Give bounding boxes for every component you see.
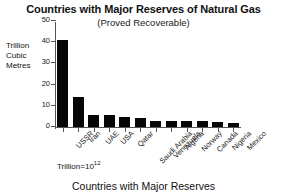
bar	[228, 123, 239, 127]
bar-chart-figure: Countries with Major Reserves of Natural…	[0, 0, 287, 196]
plot-area: 01020304050	[55, 22, 241, 128]
y-axis-tick: 40	[55, 41, 56, 42]
y-axis-tick-mark	[51, 84, 56, 85]
y-axis-line	[55, 22, 56, 129]
bar	[119, 117, 130, 127]
bar	[135, 118, 146, 127]
y-axis-tick-label: 30	[42, 57, 50, 66]
bar	[57, 40, 68, 127]
bar	[104, 115, 115, 127]
y-axis-tick-mark	[51, 41, 56, 42]
y-axis-label-line-3: Metres	[6, 61, 46, 71]
y-axis-tick-label: 40	[42, 36, 50, 45]
y-axis-tick-mark	[51, 126, 56, 127]
x-axis-tick-label: Qatar	[135, 129, 155, 149]
y-axis-tick-mark	[51, 62, 56, 63]
chart-title: Countries with Major Reserves of Natural…	[0, 3, 287, 15]
footnote-exponent: 12	[94, 160, 101, 166]
y-axis-label: Trillion Cubic Metres	[6, 41, 46, 71]
x-axis-tick-label: USA	[119, 129, 136, 146]
footnote: Trillion=1012	[57, 160, 101, 171]
bar	[88, 115, 99, 127]
bar	[150, 121, 161, 127]
y-axis-tick-mark	[51, 20, 56, 21]
y-axis-tick: 10	[55, 105, 56, 106]
y-axis-tick-label: 10	[42, 100, 50, 109]
footnote-text: Trillion=10	[57, 162, 94, 171]
bar	[181, 121, 192, 127]
x-axis-tick-label: UAE	[103, 129, 120, 146]
y-axis-tick-mark	[51, 105, 56, 106]
y-axis-label-line-1: Trillion	[6, 41, 46, 51]
bar	[212, 122, 223, 127]
y-axis-tick-label: 20	[42, 79, 50, 88]
y-axis-label-line-2: Cubic	[6, 51, 46, 61]
y-axis-tick: 20	[55, 84, 56, 85]
bar	[73, 97, 84, 127]
y-axis-tick: 30	[55, 62, 56, 63]
y-axis-tick: 0	[55, 126, 56, 127]
y-axis-tick: 50	[55, 20, 56, 21]
bar	[197, 121, 208, 127]
x-axis-caption: Countries with Major Reserves	[0, 180, 287, 192]
y-axis-tick-label: 0	[46, 121, 50, 130]
bar	[166, 121, 177, 127]
y-axis-tick-label: 50	[42, 15, 50, 24]
